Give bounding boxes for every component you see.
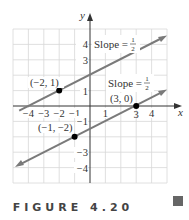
svg-text:4: 4 xyxy=(83,39,89,50)
svg-text:2: 2 xyxy=(131,45,135,53)
point-neg2-1 xyxy=(56,88,62,94)
svg-text:−3: −3 xyxy=(38,108,49,119)
svg-text:1: 1 xyxy=(145,75,149,83)
point-label-3-0: (3, 0) xyxy=(110,93,133,105)
y-axis-arrow-icon xyxy=(87,13,93,21)
svg-text:−4: −4 xyxy=(77,163,89,174)
svg-text:1: 1 xyxy=(103,108,108,119)
svg-text:−3: −3 xyxy=(77,147,88,158)
arrowhead-upper-right-icon xyxy=(158,36,167,43)
point-3-0 xyxy=(133,103,139,109)
svg-text:−4: −4 xyxy=(23,108,35,119)
slope-annotation-lower: Slope = 1 2 xyxy=(106,74,154,92)
svg-text:Slope =: Slope = xyxy=(94,38,128,50)
svg-text:1: 1 xyxy=(83,86,88,97)
svg-text:−1: −1 xyxy=(77,116,88,127)
svg-text:3: 3 xyxy=(134,109,139,120)
arrowhead-lower-left-icon xyxy=(15,160,24,167)
svg-text:−2: −2 xyxy=(54,108,65,119)
end-marker-square-icon xyxy=(173,196,183,206)
svg-text:1: 1 xyxy=(131,36,135,44)
coordinate-plane-figure: x y −4 −3 −2 −1 1 3 4 4 3 1 −1 −3 −4 xyxy=(0,0,189,220)
figure-caption: FIGURE 4.20 xyxy=(0,201,146,214)
point-neg1-neg2 xyxy=(72,134,78,140)
y-axis-label: y xyxy=(79,9,85,21)
point-label-neg1-neg2: (−1, −2) xyxy=(38,122,73,134)
svg-text:2: 2 xyxy=(145,84,149,92)
slope-annotation-upper: Slope = 1 2 xyxy=(92,35,140,53)
svg-text:4: 4 xyxy=(149,108,155,119)
svg-text:Slope =: Slope = xyxy=(108,77,142,89)
svg-text:3: 3 xyxy=(83,55,88,66)
x-tick-labels: −4 −3 −2 −1 1 3 4 xyxy=(20,108,157,120)
point-label-neg2-1: (−2, 1) xyxy=(30,77,59,89)
x-axis-label: x xyxy=(177,106,183,118)
